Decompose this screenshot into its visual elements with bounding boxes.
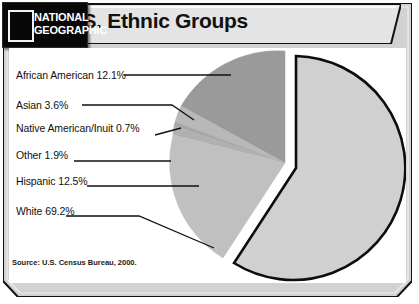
label-african-american: African American 12.1%	[16, 69, 126, 81]
infographic-root: U.S. Ethnic Groups NATIONAL GEOGRAPHIC	[0, 0, 419, 304]
pie-chart-svg	[9, 48, 406, 283]
label-white: White 69.2%	[16, 205, 74, 217]
label-hispanic: Hispanic 12.5%	[16, 175, 88, 187]
natgeo-rectangle-icon	[8, 10, 34, 42]
source-note: Source: U.S. Census Bureau, 2000.	[12, 258, 137, 267]
label-native-american-inuit: Native American/Inuit 0.7%	[16, 122, 139, 134]
logo-wordmark: NATIONAL GEOGRAPHIC	[34, 11, 107, 37]
logo-line-national: NATIONAL	[34, 11, 107, 24]
label-asian: Asian 3.6%	[16, 99, 68, 111]
label-other: Other 1.9%	[16, 149, 68, 161]
pie-chart	[9, 48, 406, 283]
chart-canvas	[9, 48, 406, 283]
national-geographic-logo: NATIONAL GEOGRAPHIC	[2, 2, 88, 48]
logo-line-geographic: GEOGRAPHIC	[34, 24, 107, 37]
